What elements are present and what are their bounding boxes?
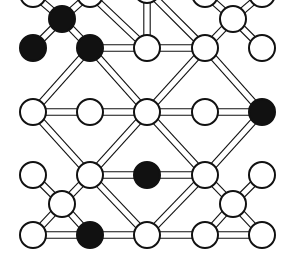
filled-atom xyxy=(249,99,275,125)
empty-atom xyxy=(134,222,160,248)
empty-atom xyxy=(249,222,275,248)
empty-atom xyxy=(192,222,218,248)
empty-atom xyxy=(249,35,275,61)
empty-atom xyxy=(20,99,46,125)
filled-atom xyxy=(20,35,46,61)
empty-atom xyxy=(249,162,275,188)
filled-atom xyxy=(49,6,75,32)
filled-atom xyxy=(77,35,103,61)
empty-atom xyxy=(220,6,246,32)
empty-atom xyxy=(192,162,218,188)
empty-atom xyxy=(134,35,160,61)
empty-atom xyxy=(20,162,46,188)
empty-atom xyxy=(49,191,75,217)
empty-atom xyxy=(134,0,160,3)
atoms-layer xyxy=(20,0,275,248)
empty-atom xyxy=(77,99,103,125)
empty-atom xyxy=(192,99,218,125)
empty-atom xyxy=(20,222,46,248)
empty-atom xyxy=(77,162,103,188)
empty-atom xyxy=(220,191,246,217)
empty-atom xyxy=(192,35,218,61)
lattice-diagram xyxy=(0,0,285,254)
empty-atom xyxy=(134,99,160,125)
filled-atom xyxy=(134,162,160,188)
filled-atom xyxy=(77,222,103,248)
